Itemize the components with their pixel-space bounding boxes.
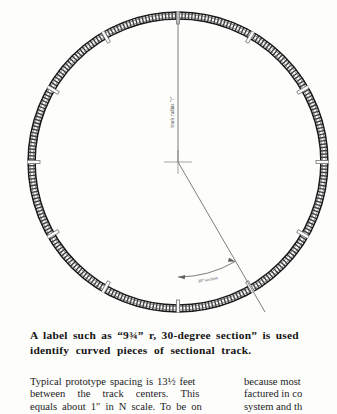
body-left-line-2: between the track centers. This [30, 388, 227, 400]
body-column-left: Typical prototype spacing is 13½ feet be… [30, 376, 227, 414]
radius-label: track radius "r" [169, 96, 175, 127]
body-text-columns: Typical prototype spacing is 13½ feet be… [30, 376, 337, 414]
body-right-line-1: because most [244, 376, 337, 388]
body-right-line-3: system and th [244, 401, 337, 413]
angle-arrowhead-start [178, 275, 185, 279]
track-circle-figure: track radius "r" 30° section [0, 0, 337, 322]
caption-line-2: identify curved pieces of sectional trac… [30, 343, 337, 358]
body-left-line-3: equals about 1″ in N scale. To be on [30, 401, 227, 413]
angle-label: 30° section [197, 275, 219, 284]
caption-line-1: A label such as “9¾” r, 30-degree sectio… [30, 328, 337, 343]
track-circle-svg: track radius "r" 30° section [0, 0, 337, 322]
rail-joint [176, 300, 179, 316]
body-column-right: because most factured in co system and t… [244, 376, 337, 414]
figure-caption: A label such as “9¾” r, 30-degree sectio… [30, 328, 337, 357]
rail-joint [316, 160, 332, 163]
body-left-line-1: Typical prototype spacing is 13½ feet [30, 376, 227, 388]
radius-line-angled [178, 162, 265, 312]
rail-joint [24, 160, 40, 163]
angle-dimension-arc [178, 261, 236, 277]
body-right-line-2: factured in co [244, 388, 337, 400]
